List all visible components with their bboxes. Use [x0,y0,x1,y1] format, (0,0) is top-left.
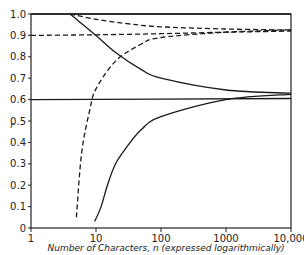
y-tick-label: 0.1 [10,201,26,212]
series-solid-increasing [95,94,291,221]
y-tick-label: 0.9 [10,30,26,41]
series-dashed-increasing [76,30,291,217]
series-solid-horizontal-lower [31,99,291,100]
series-dashed-decreasing [70,14,291,30]
y-tick-label: 0 [20,223,26,234]
y-tick-label: 0.4 [10,137,26,148]
line-chart: 00.10.20.30.40.50.60.70.80.91.0 11010010… [0,0,304,255]
series-solid-decreasing [70,14,291,93]
y-tick-label: 0.7 [10,73,26,84]
x-axis-label: Number of Characters, n (expressed logar… [47,243,284,253]
y-tick-label: 1.0 [10,9,26,20]
series-dashed-horizontal [31,31,291,35]
y-tick-label: 0.2 [10,180,26,191]
data-series [31,14,291,222]
plot-frame [31,14,291,228]
y-tick-label: 0.8 [10,51,26,62]
x-tick-label: 1 [28,233,34,244]
y-tick-label: 0.6 [10,94,26,105]
y-tick-label: 0.3 [10,158,26,169]
x-axis-ticks: 110100100010,000 [28,228,304,244]
